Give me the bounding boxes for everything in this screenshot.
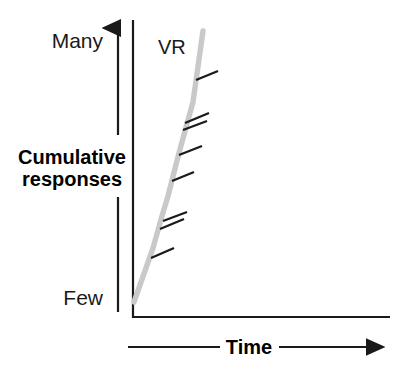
y-axis-tick-label-few: Few [63,286,104,309]
series-label-vr: VR [158,36,186,58]
x-axis-title: Time [226,336,272,358]
cumulative-record-line-vr [134,31,203,302]
y-axis-title-line-1: Cumulative [18,146,126,168]
y-axis-tick-label-many: Many [52,29,104,52]
y-axis-title: Cumulative responses [18,146,126,190]
vr-response-curve [134,31,203,302]
reinforcement-marks-group [151,71,218,258]
chart-canvas: Many Few Cumulative responses VR [0,0,404,368]
cumulative-record-figure: Many Few Cumulative responses VR [0,0,404,368]
y-axis-title-line-2: responses [22,168,122,190]
